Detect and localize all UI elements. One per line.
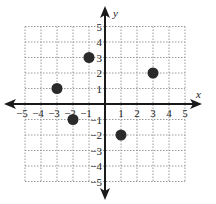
data-point	[84, 52, 95, 63]
y-tick-label: 3	[97, 52, 103, 64]
axes	[4, 6, 202, 200]
x-tick-label: 1	[118, 107, 124, 119]
y-tick-label: −4	[90, 160, 102, 172]
x-tick-label: −5	[16, 107, 28, 119]
y-axis-label: y	[112, 7, 118, 19]
y-tick-label: −1	[90, 114, 102, 126]
data-point	[148, 68, 159, 79]
y-tick-label: 1	[97, 83, 103, 95]
x-tick-label: −3	[48, 107, 60, 119]
y-tick-label: −2	[90, 129, 102, 141]
y-tick-label: −5	[90, 176, 102, 188]
x-tick-labels: −5−4−3−2−112345	[16, 107, 188, 119]
x-axis-label: x	[195, 88, 201, 100]
x-tick-label: 2	[134, 107, 140, 119]
x-tick-label: 5	[182, 107, 188, 119]
y-tick-label: 4	[97, 36, 103, 48]
x-tick-label: 4	[166, 107, 172, 119]
coordinate-plane: x y −5−4−3−2−112345 −5−4−3−2−112345	[0, 0, 216, 204]
data-point	[116, 130, 127, 141]
x-tick-label: 3	[150, 107, 156, 119]
data-point	[52, 83, 63, 94]
data-point	[68, 114, 79, 125]
y-tick-label: −3	[90, 145, 102, 157]
y-tick-label: 5	[97, 21, 103, 33]
y-tick-label: 2	[97, 67, 103, 79]
x-tick-label: −4	[32, 107, 44, 119]
